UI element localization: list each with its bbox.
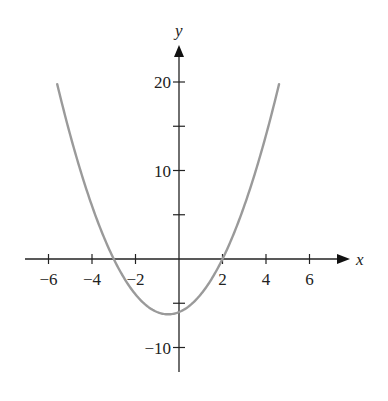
tick-labels: xy−6−4−2246−101020 <box>39 21 364 358</box>
x-axis-label: x <box>355 250 364 269</box>
x-tick-label: −4 <box>83 270 102 289</box>
x-tick-label: 6 <box>305 270 314 289</box>
x-tick-label: 2 <box>218 270 227 289</box>
axes <box>25 45 350 372</box>
x-tick-label: 4 <box>262 270 271 289</box>
x-tick-label: −6 <box>39 270 57 289</box>
y-tick-label: 20 <box>154 73 171 92</box>
x-tick-label: −2 <box>126 270 144 289</box>
y-tick-label: 10 <box>154 162 171 181</box>
y-axis-label: y <box>173 21 183 40</box>
y-axis-arrow-icon <box>174 45 184 57</box>
y-tick-label: −10 <box>144 339 171 358</box>
x-axis-arrow-icon <box>337 254 350 264</box>
function-graph: xy−6−4−2246−101020 <box>0 0 388 401</box>
